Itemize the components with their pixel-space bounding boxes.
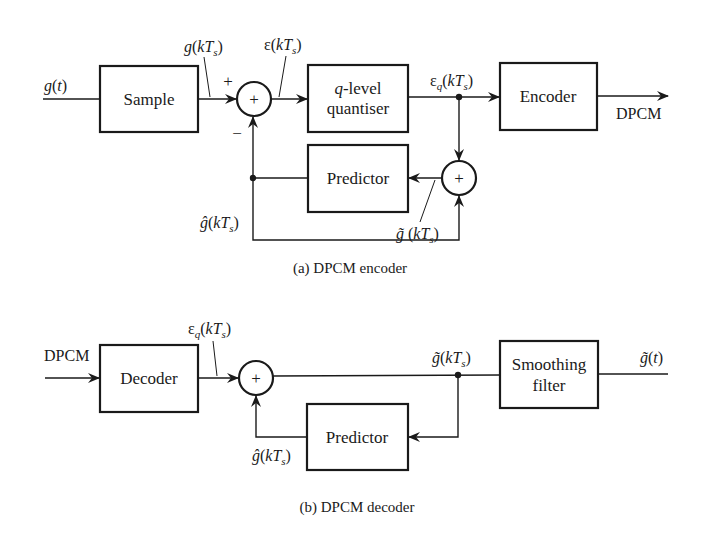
error-signal-label: ε(kTs) bbox=[264, 36, 302, 56]
smoothing-filter-label-line1: Smoothing bbox=[512, 355, 587, 374]
summing-junction-2: + bbox=[442, 161, 476, 195]
decoder-error-leader-line bbox=[213, 341, 217, 376]
decoder-prediction-label: ĝ(kTs) bbox=[252, 447, 291, 467]
sample-block: Sample bbox=[100, 66, 198, 132]
quantiser-block: q-level quantiser bbox=[308, 65, 408, 132]
reconstructed-signal-label: g̃ (kTs) bbox=[396, 225, 439, 245]
quantised-error-label: εq(kTs) bbox=[430, 72, 473, 92]
smoothing-filter-block: Smoothing filter bbox=[500, 341, 598, 408]
decoder-prediction-line bbox=[256, 396, 307, 437]
reconstructed-leader-line bbox=[420, 180, 435, 222]
encoder-predictor-label: Predictor bbox=[327, 169, 390, 188]
minus-sign-label: − bbox=[232, 124, 242, 143]
decoder-reconstructed-line bbox=[273, 375, 500, 376]
decoder-feedback-line bbox=[409, 375, 458, 437]
sampled-signal-label: g(kTs) bbox=[184, 38, 223, 58]
encoder-label: Encoder bbox=[520, 87, 577, 106]
sample-label: Sample bbox=[124, 90, 175, 109]
decoder-predictor-label: Predictor bbox=[326, 428, 389, 447]
smoothing-filter-label-line2: filter bbox=[532, 376, 565, 395]
summer-plus-symbol: + bbox=[249, 90, 259, 109]
decoder-label: Decoder bbox=[120, 369, 178, 388]
encoder-block: Encoder bbox=[500, 63, 597, 130]
decoder-caption: (b) DPCM decoder bbox=[300, 499, 415, 516]
encoder-diagram: g(t) Sample g(kTs) + + − ε(kTs) q-level … bbox=[43, 36, 668, 277]
summer2-plus-symbol: + bbox=[454, 169, 464, 188]
encoder-input-label: g(t) bbox=[44, 77, 67, 95]
decoder-output-label: g̃(t) bbox=[640, 349, 663, 367]
plus-sign-label: + bbox=[223, 72, 233, 91]
decoder-reconstructed-label: g̃(kTs) bbox=[432, 349, 471, 369]
sampled-leader-line bbox=[204, 57, 210, 97]
quantiser-label-line1: q-level bbox=[334, 79, 381, 98]
decoder-summing-junction: + bbox=[239, 361, 273, 395]
prediction-signal-label: ĝ(kTs) bbox=[200, 214, 239, 234]
dpcm-diagram: g(t) Sample g(kTs) + + − ε(kTs) q-level … bbox=[0, 0, 701, 538]
decoder-summer-plus-symbol: + bbox=[251, 369, 261, 388]
decoder-predictor-block: Predictor bbox=[307, 404, 408, 470]
decoder-block: Decoder bbox=[100, 345, 198, 412]
error-leader-line bbox=[279, 56, 286, 97]
encoder-output-label: DPCM bbox=[616, 105, 661, 122]
encoder-caption: (a) DPCM encoder bbox=[293, 260, 407, 277]
encoder-predictor-block: Predictor bbox=[308, 145, 408, 212]
quantiser-label-line2: quantiser bbox=[327, 99, 390, 118]
decoder-diagram: DPCM Decoder εq(kTs) + g̃(kTs) Smoothing… bbox=[44, 320, 668, 516]
decoder-input-label: DPCM bbox=[44, 347, 89, 364]
summing-junction-1: + bbox=[237, 82, 271, 116]
decoder-quantised-error-label: εq(kTs) bbox=[188, 320, 231, 340]
